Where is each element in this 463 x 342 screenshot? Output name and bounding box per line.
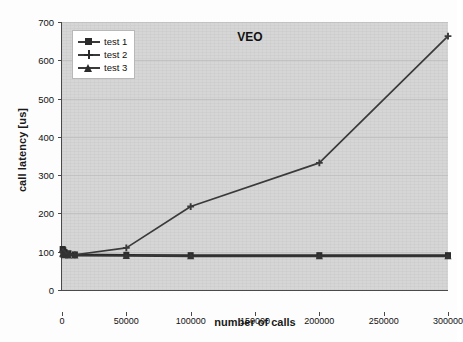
y-tick-label: 500 (20, 93, 54, 104)
legend-item-test-2: test 2 (78, 48, 127, 61)
legend-marker-cross-icon (78, 49, 100, 60)
legend-item-test-1: test 1 (78, 35, 127, 48)
y-tick-label: 0 (20, 285, 54, 296)
y-tick-label: 200 (20, 208, 54, 219)
series-line (63, 249, 448, 255)
legend-label: test 1 (104, 36, 127, 47)
legend-label: test 2 (104, 49, 127, 60)
legend: test 1 test 2 test 3 (72, 30, 135, 79)
y-tick-label: 300 (20, 170, 54, 181)
y-tick-label: 100 (20, 246, 54, 257)
legend-marker-triangle-icon (78, 62, 100, 73)
chart-title: VEO (150, 30, 350, 44)
legend-label: test 3 (104, 62, 127, 73)
y-tick-mark (58, 290, 62, 291)
y-tick-label: 700 (20, 17, 54, 28)
y-tick-label: 400 (20, 131, 54, 142)
legend-item-test-3: test 3 (78, 61, 127, 74)
legend-marker-square-icon (78, 36, 100, 47)
x-axis-title: number of calls (60, 316, 450, 328)
y-tick-label: 600 (20, 55, 54, 66)
